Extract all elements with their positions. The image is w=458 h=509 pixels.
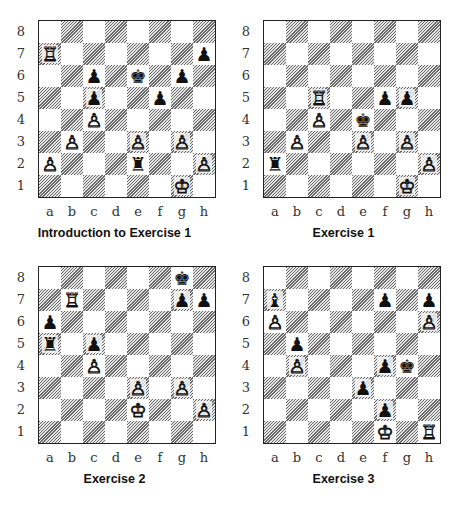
square-d7 xyxy=(105,43,127,65)
black-pawn-icon: ♟ xyxy=(151,87,168,109)
rank-label: 7 xyxy=(239,43,253,65)
square-h2: ♙ xyxy=(418,153,440,175)
white-rook-icon: ♖ xyxy=(63,289,80,311)
black-pawn-icon: ♟ xyxy=(288,333,305,355)
square-g7 xyxy=(171,43,193,65)
square-c6: ♟ xyxy=(83,65,105,87)
square-b1 xyxy=(61,421,83,443)
square-h8 xyxy=(418,267,440,289)
square-b5 xyxy=(61,87,83,109)
square-b8 xyxy=(286,267,308,289)
black-pawn-icon: ♟ xyxy=(376,399,393,421)
square-f3 xyxy=(149,377,171,399)
white-rook-icon: ♖ xyxy=(310,87,327,109)
square-g2 xyxy=(171,399,193,421)
file-label: f xyxy=(374,450,396,466)
square-d6 xyxy=(105,311,127,333)
square-e5 xyxy=(127,87,149,109)
square-b4 xyxy=(286,109,308,131)
square-e6: ♚ xyxy=(127,65,149,87)
square-h5 xyxy=(193,87,215,109)
square-c8 xyxy=(83,21,105,43)
square-f6 xyxy=(149,311,171,333)
square-f6 xyxy=(374,311,396,333)
square-e4 xyxy=(352,355,374,377)
square-a8 xyxy=(39,21,61,43)
square-c7 xyxy=(308,289,330,311)
square-e4 xyxy=(127,109,149,131)
file-label: g xyxy=(396,450,418,466)
square-h2: ♙ xyxy=(193,399,215,421)
square-c5: ♟ xyxy=(83,87,105,109)
square-e6 xyxy=(352,311,374,333)
square-d4 xyxy=(105,355,127,377)
square-a1 xyxy=(39,175,61,197)
rank-label: 1 xyxy=(14,175,28,197)
square-f1 xyxy=(374,175,396,197)
square-a8 xyxy=(264,21,286,43)
white-pawn-icon: ♙ xyxy=(288,355,305,377)
white-pawn-icon: ♙ xyxy=(129,377,146,399)
white-king-icon: ♔ xyxy=(398,175,415,197)
black-king-icon: ♚ xyxy=(398,355,415,377)
square-g6 xyxy=(396,65,418,87)
square-d1 xyxy=(105,421,127,443)
square-c4 xyxy=(308,355,330,377)
square-b6 xyxy=(286,65,308,87)
square-e7 xyxy=(352,289,374,311)
square-b7 xyxy=(61,43,83,65)
square-h1 xyxy=(193,175,215,197)
square-c8 xyxy=(308,21,330,43)
square-a6: ♙ xyxy=(264,311,286,333)
file-label: a xyxy=(264,204,286,220)
rank-label: 3 xyxy=(239,377,253,399)
square-a7: ♖ xyxy=(39,43,61,65)
file-label: d xyxy=(330,450,352,466)
square-h4 xyxy=(418,109,440,131)
square-a4 xyxy=(264,109,286,131)
black-king-icon: ♚ xyxy=(129,65,146,87)
square-e3: ♙ xyxy=(127,131,149,153)
caption-intro-exercise-1: Introduction to Exercise 1 xyxy=(0,226,229,240)
square-c7 xyxy=(83,43,105,65)
square-b2 xyxy=(286,153,308,175)
square-d2 xyxy=(330,153,352,175)
square-c3 xyxy=(83,377,105,399)
square-g6: ♟ xyxy=(171,65,193,87)
square-d8 xyxy=(105,267,127,289)
square-h6 xyxy=(193,311,215,333)
square-c4: ♙ xyxy=(308,109,330,131)
rank-labels: 87654321 xyxy=(14,267,28,443)
square-a1 xyxy=(264,175,286,197)
square-g3: ♙ xyxy=(171,131,193,153)
square-c8 xyxy=(83,267,105,289)
square-c6 xyxy=(308,65,330,87)
square-c6 xyxy=(83,311,105,333)
white-pawn-icon: ♙ xyxy=(63,131,80,153)
white-king-icon: ♔ xyxy=(173,175,190,197)
square-g4 xyxy=(171,355,193,377)
square-b5 xyxy=(286,87,308,109)
square-b3 xyxy=(61,377,83,399)
square-e1 xyxy=(352,175,374,197)
file-label: h xyxy=(418,204,440,220)
rank-label: 8 xyxy=(239,21,253,43)
file-label: c xyxy=(308,450,330,466)
black-rook-icon: ♜ xyxy=(266,153,283,175)
square-f8 xyxy=(374,267,396,289)
square-e3: ♙ xyxy=(352,131,374,153)
square-e3: ♙ xyxy=(127,377,149,399)
black-rook-icon: ♜ xyxy=(41,333,58,355)
square-e1 xyxy=(127,175,149,197)
white-pawn-icon: ♙ xyxy=(288,131,305,153)
square-f2: ♟ xyxy=(374,399,396,421)
rank-label: 7 xyxy=(14,43,28,65)
square-a1 xyxy=(39,421,61,443)
square-d5 xyxy=(330,87,352,109)
square-c8 xyxy=(308,267,330,289)
file-label: f xyxy=(149,450,171,466)
rank-label: 2 xyxy=(14,153,28,175)
square-f4 xyxy=(149,109,171,131)
white-rook-icon: ♖ xyxy=(420,421,437,443)
square-g3: ♙ xyxy=(171,377,193,399)
